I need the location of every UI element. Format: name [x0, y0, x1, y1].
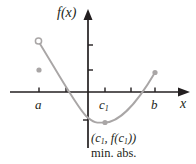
coord-part-3: ))	[128, 131, 136, 145]
isolated-point-marker	[36, 67, 41, 72]
coord-part-1: (c	[91, 131, 101, 145]
c1-base: c	[99, 97, 105, 112]
x-tick-label-c1: c1	[99, 98, 109, 111]
y-axis-label: f(x)	[57, 6, 76, 20]
coord-sub-1: 1	[101, 137, 105, 146]
y-axis-arrowhead	[84, 9, 93, 20]
function-curve	[39, 42, 156, 123]
closed-endpoint-marker-b	[152, 70, 157, 75]
math-figure: f(x) x a b c1 (c1, f(c1)) min. abs.	[0, 0, 196, 164]
c1-subscript: 1	[105, 104, 109, 113]
minimum-coordinate-label: (c1, f(c1))	[91, 132, 136, 145]
coord-sub-2: 1	[124, 137, 128, 146]
minimum-point-marker	[102, 120, 107, 125]
minimum-caption: min. abs.	[91, 147, 136, 160]
open-endpoint-marker-a	[35, 38, 41, 44]
coord-part-2: , f(c	[105, 131, 124, 145]
x-tick-label-a: a	[35, 98, 42, 111]
x-axis-label: x	[180, 97, 186, 111]
x-tick-label-b: b	[151, 98, 158, 111]
